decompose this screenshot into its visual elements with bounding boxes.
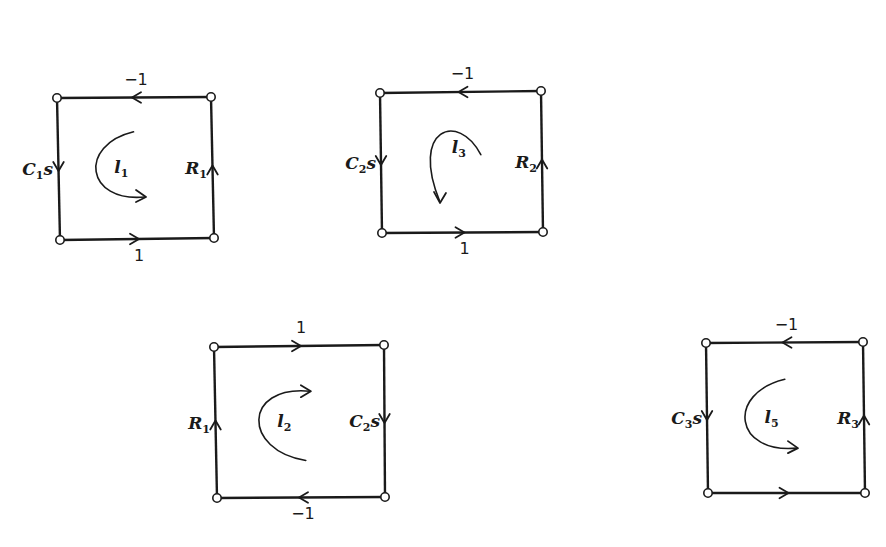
node-circle: [861, 489, 869, 497]
node-circle: [56, 236, 64, 244]
gain-left-label: C3s: [671, 408, 702, 431]
loop-l1: −11C1sR1l1: [22, 70, 218, 265]
node-circle: [376, 89, 384, 97]
loop-label: l2: [277, 411, 291, 434]
node-circle: [378, 229, 386, 237]
node-circle: [210, 343, 218, 351]
node-circle: [207, 93, 215, 101]
loop-label: l5: [765, 407, 779, 430]
node-circle: [704, 489, 712, 497]
loop-arrowhead-icon: [788, 441, 798, 453]
loop-l5: −1C3sR3l5: [671, 315, 869, 498]
node-circle: [380, 341, 388, 349]
gain-left-label: R1: [187, 413, 210, 436]
gain-right-label: C2s: [349, 411, 380, 434]
loop-arrowhead-icon: [434, 192, 446, 203]
gain-top-label: −1: [451, 64, 475, 83]
gain-left-label: C1s: [22, 159, 53, 182]
node-circle: [213, 494, 221, 502]
gain-bottom-label: 1: [459, 239, 469, 258]
loop-arrowhead-icon: [136, 190, 146, 202]
loop-label: l1: [114, 157, 128, 180]
gain-bottom-label: 1: [134, 246, 144, 265]
loop-l3: −11C2sR2l3: [345, 64, 547, 258]
node-circle: [53, 94, 61, 102]
gain-top-label: 1: [296, 318, 306, 337]
gain-left-label: C2s: [345, 153, 376, 176]
gain-right-label: R1: [184, 158, 207, 181]
node-circle: [210, 234, 218, 242]
loop-label: l3: [452, 137, 466, 160]
gain-top-label: −1: [775, 315, 799, 334]
gain-right-label: R3: [836, 408, 859, 431]
gain-right-label: R2: [514, 152, 537, 175]
node-circle: [381, 493, 389, 501]
signal-flow-loops-diagram: −11C1sR1l1−11C2sR2l31−1R1C2sl2−1C3sR3l5: [0, 0, 886, 547]
gain-bottom-label: −1: [291, 504, 315, 523]
node-circle: [537, 87, 545, 95]
node-circle: [859, 338, 867, 346]
node-circle: [539, 228, 547, 236]
gain-top-label: −1: [124, 70, 148, 89]
loop-l2: 1−1R1C2sl2: [187, 318, 390, 523]
node-circle: [702, 339, 710, 347]
